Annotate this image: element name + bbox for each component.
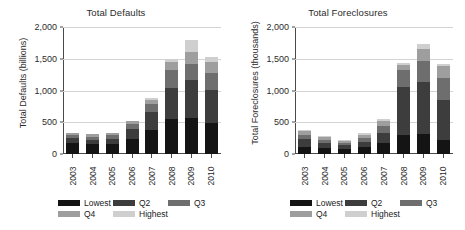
legend-item-highest[interactable]: Highest <box>345 209 435 219</box>
plot-area-right: 05001,0001,5002,000 <box>295 27 453 154</box>
legend-item-q2[interactable]: Q2 <box>345 198 400 208</box>
x-label-slot: 2006 <box>358 158 371 188</box>
y-tick-label: 2,000 <box>266 22 289 32</box>
bar-2010[interactable] <box>205 27 218 154</box>
bar-segment-q3 <box>205 73 218 90</box>
bar-segment-q2 <box>145 112 158 130</box>
bar-2008[interactable] <box>397 27 410 154</box>
legend-item-lowest[interactable]: Lowest <box>58 198 113 208</box>
legend-row: LowestQ2Q3 <box>58 197 228 208</box>
bar-segment-q2 <box>126 129 139 139</box>
legend-swatch-highest <box>345 211 367 217</box>
legend-swatch-q2 <box>345 200 367 206</box>
bar-segment-lowest <box>437 140 450 154</box>
legend-label-q3: Q3 <box>194 198 205 208</box>
bar-segment-lowest <box>145 130 158 154</box>
x-label-slot: 2007 <box>377 158 390 188</box>
bar-2007[interactable] <box>145 27 158 154</box>
bar-2008[interactable] <box>165 27 178 154</box>
bar-segment-q2 <box>205 90 218 122</box>
legend-label-q4: Q4 <box>84 209 95 219</box>
legend-item-q3[interactable]: Q3 <box>400 198 455 208</box>
x-label-slot: 2006 <box>126 158 139 188</box>
legend-item-q2[interactable]: Q2 <box>113 198 168 208</box>
bar-2004[interactable] <box>318 27 331 154</box>
x-axis-label-2004: 2004 <box>88 167 98 186</box>
x-axis-label-2008: 2008 <box>399 167 409 186</box>
bar-segment-q3 <box>417 61 430 82</box>
legend-label-q2: Q2 <box>139 198 150 208</box>
bar-segment-lowest <box>106 144 119 154</box>
bar-segment-lowest <box>66 143 79 154</box>
y-tick-label: 500 <box>274 117 289 127</box>
x-axis-labels-left: 20032004200520062007200820092010 <box>63 158 221 188</box>
legend-row: LowestQ2Q3 <box>290 197 460 208</box>
legend-item-highest[interactable]: Highest <box>113 209 203 219</box>
bar-segment-q3 <box>377 126 390 133</box>
x-axis-label-2008: 2008 <box>167 167 177 186</box>
x-label-slot: 2010 <box>437 158 450 188</box>
bar-2009[interactable] <box>185 27 198 154</box>
bar-2004[interactable] <box>86 27 99 154</box>
x-label-slot: 2004 <box>318 158 331 188</box>
bar-2005[interactable] <box>106 27 119 154</box>
bar-segment-lowest <box>358 147 371 154</box>
panel-total-defaults: Total Defaults Total Defaults (billions)… <box>0 0 232 230</box>
legend-label-q3: Q3 <box>426 198 437 208</box>
x-label-slot: 2009 <box>417 158 430 188</box>
x-axis-label-2007: 2007 <box>379 167 389 186</box>
legend-row: Q4Highest <box>290 208 460 219</box>
x-axis-label-2009: 2009 <box>186 167 196 186</box>
legend-item-q4[interactable]: Q4 <box>290 209 345 219</box>
legend-item-lowest[interactable]: Lowest <box>290 198 345 208</box>
bar-segment-q4 <box>417 49 430 61</box>
bar-segment-q2 <box>437 100 450 141</box>
bar-segment-q3 <box>185 64 198 80</box>
bar-2007[interactable] <box>377 27 390 154</box>
y-tick-label: 0 <box>284 149 289 159</box>
figure-root: Total Defaults Total Defaults (billions)… <box>0 0 465 230</box>
x-axis-label-2005: 2005 <box>339 167 349 186</box>
bar-2010[interactable] <box>437 27 450 154</box>
bar-2003[interactable] <box>66 27 79 154</box>
x-axis-label-2009: 2009 <box>418 167 428 186</box>
x-label-slot: 2007 <box>145 158 158 188</box>
y-tick-label: 1,000 <box>266 86 289 96</box>
y-tick-label: 2,000 <box>34 22 57 32</box>
bar-segment-lowest <box>185 118 198 154</box>
y-axis-label-left: Total Defaults (billions) <box>18 8 28 158</box>
x-label-slot: 2003 <box>66 158 79 188</box>
legend-label-highest: Highest <box>371 209 400 219</box>
bar-segment-q4 <box>185 52 198 64</box>
bar-segment-q2 <box>298 139 311 147</box>
x-axis-label-2010: 2010 <box>438 167 448 186</box>
x-label-slot: 2004 <box>86 158 99 188</box>
bar-segment-q4 <box>165 62 178 69</box>
legend-item-q3[interactable]: Q3 <box>168 198 223 208</box>
bar-segment-q4 <box>437 66 450 77</box>
x-label-slot: 2010 <box>205 158 218 188</box>
bar-segment-q4 <box>205 62 218 74</box>
bar-segment-q3 <box>397 70 410 87</box>
legend-swatch-q4 <box>290 211 312 217</box>
bar-segment-q2 <box>417 82 430 135</box>
bar-2003[interactable] <box>298 27 311 154</box>
plot-area-left: 05001,0001,5002,000 <box>63 27 221 154</box>
legend-item-q4[interactable]: Q4 <box>58 209 113 219</box>
bar-2006[interactable] <box>126 27 139 154</box>
x-axis-labels-right: 20032004200520062007200820092010 <box>295 158 453 188</box>
legend-label-lowest: Lowest <box>84 198 111 208</box>
bar-segment-lowest <box>165 119 178 154</box>
x-label-slot: 2003 <box>298 158 311 188</box>
bar-segment-lowest <box>397 135 410 154</box>
bar-2009[interactable] <box>417 27 430 154</box>
bar-2006[interactable] <box>358 27 371 154</box>
bar-segment-lowest <box>126 139 139 154</box>
y-tick-label: 1,000 <box>34 86 57 96</box>
bar-2005[interactable] <box>338 27 351 154</box>
x-label-slot: 2008 <box>165 158 178 188</box>
x-label-slot: 2005 <box>106 158 119 188</box>
legend-label-q4: Q4 <box>316 209 327 219</box>
bar-segment-q2 <box>185 80 198 118</box>
x-label-slot: 2005 <box>338 158 351 188</box>
